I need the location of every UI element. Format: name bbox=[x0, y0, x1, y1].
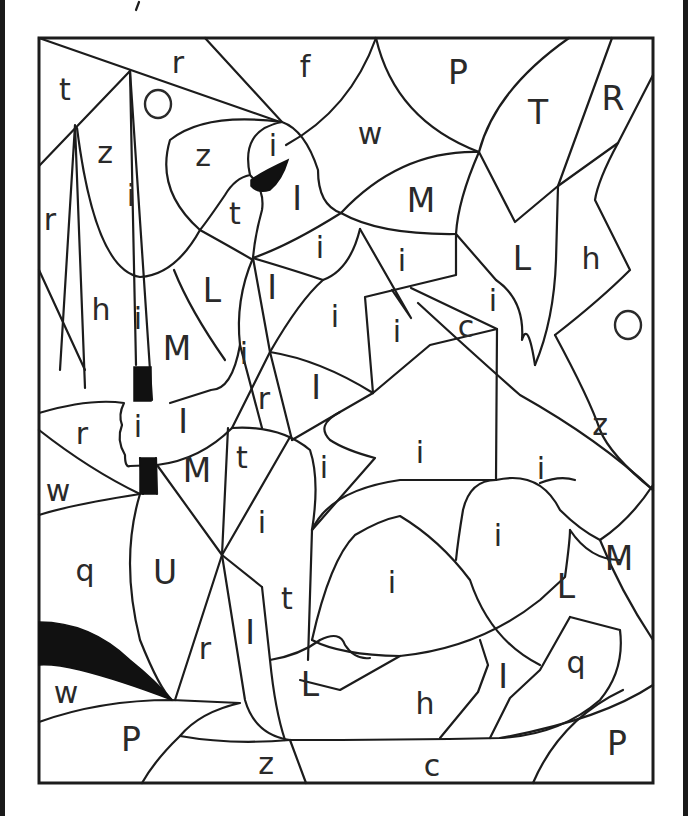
region-label: P bbox=[448, 53, 468, 92]
region-label: T bbox=[527, 93, 549, 132]
region-label: i bbox=[240, 336, 248, 371]
region-label-O bbox=[145, 90, 171, 118]
region-label: U bbox=[153, 553, 177, 592]
region-label: i bbox=[494, 518, 502, 553]
region-label: i bbox=[258, 505, 266, 540]
region-label: i bbox=[416, 435, 424, 470]
region-label: i bbox=[134, 301, 142, 336]
region-label: i bbox=[489, 283, 497, 318]
region-label: r bbox=[44, 202, 57, 237]
region-label: I bbox=[292, 179, 302, 218]
region-label: r bbox=[172, 45, 185, 80]
region-label: L bbox=[513, 239, 532, 278]
region-label: h bbox=[581, 241, 600, 276]
region-label: i bbox=[316, 230, 324, 265]
region-label: w bbox=[46, 473, 71, 508]
helmet-visor-slit bbox=[251, 160, 288, 191]
region-label: M bbox=[163, 329, 191, 368]
region-label: z bbox=[258, 746, 274, 781]
region-label: L bbox=[557, 567, 576, 606]
region-label: t bbox=[229, 196, 241, 231]
region-label: i bbox=[269, 128, 277, 163]
region-label: z bbox=[592, 407, 608, 442]
region-label: w bbox=[54, 675, 79, 710]
region-label: i bbox=[393, 314, 401, 349]
region-label: r bbox=[199, 631, 212, 666]
region-label: z bbox=[195, 138, 211, 173]
region-label: h bbox=[415, 686, 434, 721]
region-label: h bbox=[91, 292, 110, 327]
region-label: I bbox=[311, 368, 321, 407]
region-label: c bbox=[424, 748, 441, 783]
region-label: I bbox=[178, 402, 188, 441]
region-label: q bbox=[75, 553, 94, 588]
sword-grip-upper bbox=[134, 367, 151, 401]
region-label: t bbox=[281, 581, 293, 616]
region-label: P bbox=[607, 724, 627, 763]
region-label: P bbox=[121, 720, 141, 759]
region-label: L bbox=[301, 665, 320, 704]
region-label: w bbox=[358, 116, 383, 151]
region-label-O bbox=[615, 311, 641, 339]
region-label: r bbox=[76, 416, 89, 451]
region-label: f bbox=[300, 49, 312, 84]
region-label: c bbox=[458, 309, 475, 344]
region-label: i bbox=[134, 409, 142, 444]
region-label: i bbox=[537, 451, 545, 486]
coloring-artwork: trfPTRzziwiItMriiLhLIhiiiciMirIIirziMtii… bbox=[0, 0, 688, 816]
region-label: M bbox=[605, 539, 633, 578]
region-label: M bbox=[183, 451, 211, 490]
region-label: i bbox=[320, 450, 328, 485]
region-label: i bbox=[331, 299, 339, 334]
region-label: i bbox=[388, 565, 396, 600]
region-label: i bbox=[398, 243, 406, 278]
region-label: M bbox=[407, 181, 435, 220]
region-label: t bbox=[59, 72, 71, 107]
region-label: z bbox=[97, 135, 113, 170]
region-label: i bbox=[127, 178, 135, 213]
sword-grip-lower bbox=[140, 458, 156, 494]
region-label: t bbox=[236, 440, 248, 475]
region-label: L bbox=[203, 271, 222, 310]
region-label: r bbox=[258, 381, 271, 416]
top-stray-mark bbox=[136, 2, 139, 10]
region-label: I bbox=[267, 268, 277, 307]
region-label: R bbox=[602, 79, 625, 118]
region-label: q bbox=[566, 645, 585, 680]
region-label: I bbox=[498, 657, 508, 696]
region-label: I bbox=[245, 613, 255, 652]
